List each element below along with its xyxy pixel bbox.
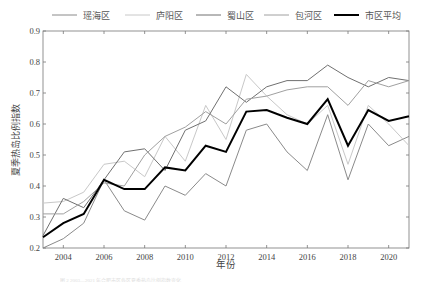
line-chart: 瑶海区庐阳区蜀山区包河区市区平均 0.20.30.40.50.60.70.80.… xyxy=(0,0,422,289)
y-tick-label: 0.4 xyxy=(29,181,40,191)
y-tick-label: 0.7 xyxy=(29,88,40,98)
series-line-1 xyxy=(43,74,409,203)
x-tick-label: 2004 xyxy=(55,252,73,262)
y-tick-label: 0.2 xyxy=(29,243,40,253)
y-tick-label: 0.6 xyxy=(29,119,40,129)
x-axis-label: 年份 xyxy=(216,259,236,270)
y-tick-label: 0.9 xyxy=(29,26,40,36)
x-axis: 200420062008201020122014201620182020 xyxy=(55,31,397,262)
legend-label: 瑶海区 xyxy=(83,10,110,21)
legend-label: 包河区 xyxy=(295,10,322,21)
x-tick-label: 2008 xyxy=(136,252,153,262)
y-tick-label: 0.8 xyxy=(29,57,40,67)
y-tick-label: 0.3 xyxy=(29,212,40,222)
chart-legend: 瑶海区庐阳区蜀山区包河区市区平均 xyxy=(52,10,401,21)
legend-label: 庐阳区 xyxy=(156,10,183,21)
x-tick-label: 2020 xyxy=(380,252,397,262)
x-tick-label: 2010 xyxy=(177,252,194,262)
x-tick-label: 2006 xyxy=(96,252,113,262)
y-axis-label: 夏季热岛比例指数 xyxy=(10,104,21,176)
legend-label: 蜀山区 xyxy=(227,11,254,21)
x-tick-label: 2016 xyxy=(299,252,316,262)
series-lines xyxy=(43,65,409,248)
legend-label: 市区平均 xyxy=(365,10,401,21)
figure-caption: 图 2 2003—2021 年合肥市区各区夏季热岛比例指数变化 xyxy=(60,276,360,282)
series-line-4 xyxy=(43,99,409,237)
x-tick-label: 2014 xyxy=(258,252,276,262)
x-tick-label: 2018 xyxy=(340,252,357,262)
y-tick-label: 0.5 xyxy=(29,150,40,160)
